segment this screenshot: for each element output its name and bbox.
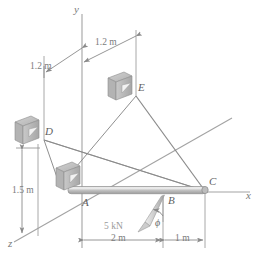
- diagram-canvas: [0, 0, 259, 257]
- dimension-label-height: 1.5 m: [12, 186, 34, 196]
- point-label-E: E: [138, 82, 145, 93]
- dimension-label-2m: 2 m: [111, 234, 126, 244]
- force-arrow-5kN: [138, 195, 165, 232]
- point-label-D: D: [45, 126, 53, 137]
- bracket-E: [108, 72, 132, 100]
- bracket-A: [56, 162, 80, 190]
- dimension-label-d-to-y: 1.2 m: [30, 62, 52, 72]
- dimension-label-1m: 1 m: [175, 234, 190, 244]
- axis-label-z: z: [8, 238, 12, 249]
- dimension-label-y-to-e: 1.2 m: [95, 38, 117, 48]
- cable-EC: [136, 96, 205, 191]
- guide-lines: [38, 30, 205, 248]
- point-label-A: A: [82, 197, 89, 208]
- axis-label-x: x: [246, 190, 251, 201]
- force-magnitude-label: 5 kN: [104, 222, 123, 232]
- point-label-B: B: [168, 195, 175, 206]
- point-label-C: C: [209, 176, 216, 187]
- axis-label-y: y: [74, 4, 79, 15]
- beam-AC: [68, 186, 208, 193]
- mechanics-diagram-figure: y x z A B C D E 1.2 m 1.2 m 1.5 m 2 m 1 …: [0, 0, 259, 257]
- force-angle-label: ϕ: [155, 218, 160, 228]
- bracket-D: [15, 116, 39, 144]
